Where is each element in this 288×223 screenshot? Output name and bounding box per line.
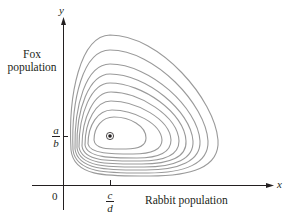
phase-portrait-diagram: y x Fox population Rabbit population 0 c…	[0, 0, 288, 223]
x-tick-label-c-over-d: c d	[106, 190, 114, 213]
y-tick-denominator: b	[53, 138, 59, 148]
y-tick-label-a-over-b: a b	[52, 125, 60, 148]
x-axis-letter: x	[277, 179, 282, 190]
orbit-2	[88, 110, 162, 154]
orbit-8	[73, 50, 208, 173]
y-tick-numerator: a	[53, 125, 59, 135]
origin-label: 0	[52, 191, 58, 202]
x-axis-label: Rabbit population	[145, 195, 228, 207]
orbits	[71, 35, 219, 176]
orbit-5	[79, 83, 186, 164]
y-axis-label-line2: population	[4, 61, 60, 74]
orbit-1	[94, 117, 146, 149]
y-axis-label-line1: Fox	[4, 48, 60, 61]
x-tick-numerator: c	[108, 190, 113, 200]
diagram-svg	[0, 0, 288, 223]
x-axis-arrow-icon	[266, 183, 274, 188]
equilibrium-dot	[108, 134, 112, 138]
y-axis-label: Fox population	[4, 48, 60, 74]
y-axis-arrow-icon	[61, 17, 66, 25]
axes	[32, 22, 268, 210]
y-axis-letter: y	[59, 5, 64, 16]
x-tick-denominator: d	[107, 203, 113, 213]
